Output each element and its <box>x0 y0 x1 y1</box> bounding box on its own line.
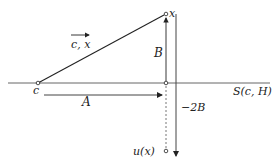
point-x <box>164 12 168 16</box>
label-horizon: S(c, H) <box>233 85 272 98</box>
label-A: A <box>81 95 91 109</box>
label-vector-c-x: c, x <box>71 38 91 51</box>
label-c: c <box>33 84 39 97</box>
point-foot <box>164 81 168 85</box>
geometry-diagram: c, x x c B A −2B S(c, H) u(x) <box>0 0 280 163</box>
label-B: B <box>153 46 163 60</box>
label-u-x: u(x) <box>133 145 155 158</box>
label-neg-2B: −2B <box>181 101 205 114</box>
point-u <box>164 149 168 153</box>
label-x: x <box>169 7 176 20</box>
segment-c-x <box>38 15 164 83</box>
